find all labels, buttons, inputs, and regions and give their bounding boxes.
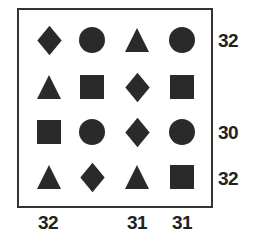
circle-icon (169, 27, 195, 53)
square-icon (80, 75, 104, 99)
triangle-icon (37, 75, 61, 99)
col-4-sum: 31 (172, 213, 192, 232)
col-3-sum: 31 (127, 213, 147, 232)
square-icon (37, 120, 61, 144)
triangle-icon (125, 165, 149, 189)
square-icon (170, 165, 194, 189)
col-1-sum: 32 (38, 213, 58, 232)
row-4-sum: 32 (218, 169, 238, 188)
row-1-sum: 32 (218, 31, 238, 50)
square-icon (170, 75, 194, 99)
circle-icon (169, 119, 195, 145)
triangle-icon (37, 165, 61, 189)
triangle-icon (125, 28, 149, 52)
row-3-sum: 30 (218, 123, 238, 142)
circle-icon (79, 27, 105, 53)
circle-icon (79, 119, 105, 145)
